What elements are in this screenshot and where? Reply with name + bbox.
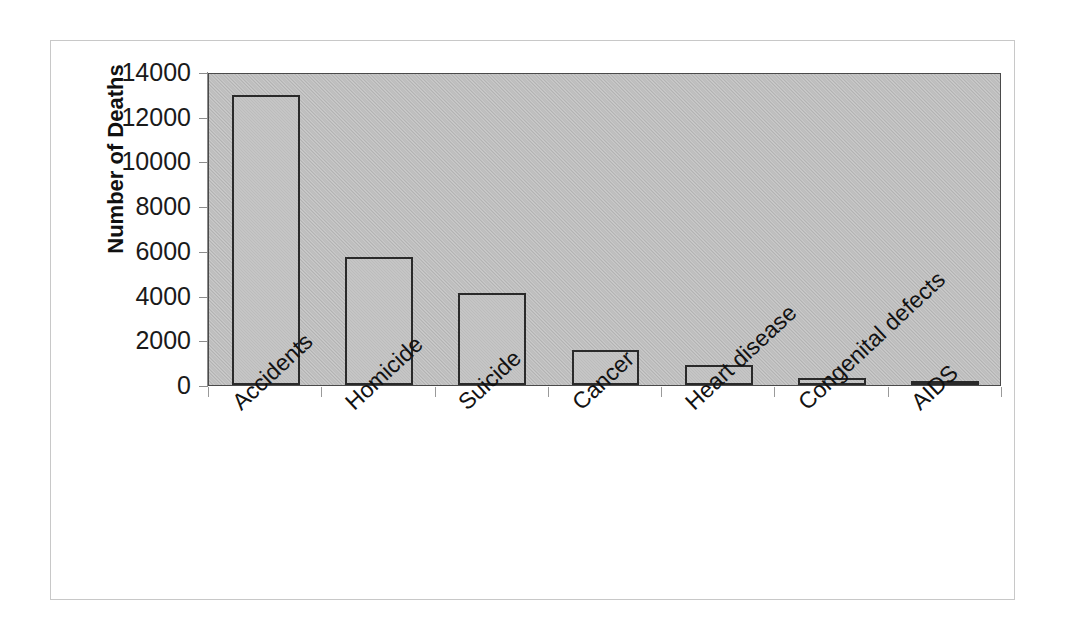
y-axis-tick (199, 162, 208, 163)
y-axis-tick (199, 73, 208, 74)
x-axis-tick (435, 387, 436, 397)
y-axis-tick-label: 6000 (135, 239, 191, 264)
x-axis-tick (774, 387, 775, 397)
x-axis-tick (208, 387, 209, 397)
y-axis-tick-label: 14000 (121, 60, 191, 85)
chart-frame: Number of Deaths 14000120001000080006000… (50, 40, 1015, 600)
y-axis-tick-label: 12000 (121, 105, 191, 130)
chart-screenshot: Number of Deaths 14000120001000080006000… (0, 0, 1066, 632)
x-axis-tick (661, 387, 662, 397)
y-axis-tick-label: 8000 (135, 194, 191, 219)
y-axis-tick (199, 341, 208, 342)
y-axis-tick (199, 252, 208, 253)
x-axis-tick (1001, 387, 1002, 397)
y-axis-tick (199, 386, 208, 387)
x-axis-tick (888, 387, 889, 397)
y-axis-tick-label: 10000 (121, 149, 191, 174)
y-axis-tick (199, 297, 208, 298)
x-axis-tick (321, 387, 322, 397)
y-axis-tick-label: 0 (177, 373, 191, 398)
y-axis-tick-label: 4000 (135, 284, 191, 309)
y-axis-tick (199, 207, 208, 208)
y-axis-labels: 14000120001000080006000400020000 (51, 41, 191, 601)
y-axis-tick (199, 118, 208, 119)
y-axis-tick-label: 2000 (135, 328, 191, 353)
x-axis-tick (548, 387, 549, 397)
